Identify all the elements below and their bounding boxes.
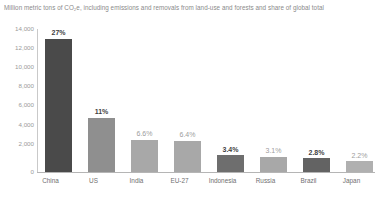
bar-slot: 11% <box>88 29 115 172</box>
bar-slot: 27% <box>45 29 72 172</box>
x-axis-line <box>37 172 375 173</box>
bar-china[interactable] <box>45 39 72 172</box>
bar-slot: 6.6% <box>131 29 158 172</box>
bar-brazil[interactable] <box>303 158 330 172</box>
bar-value-label: 3.1% <box>266 147 282 154</box>
y-axis-tick: 12,000 <box>1 45 34 51</box>
y-axis-tick: 4,000 <box>1 122 34 128</box>
x-axis-category-japan: Japan <box>334 177 369 184</box>
y-axis-tick: 2,000 <box>1 141 34 147</box>
x-axis-category-indonesia: Indonesia <box>205 177 240 184</box>
bar-value-label: 6.4% <box>180 131 196 138</box>
x-axis-category-brazil: Brazil <box>291 177 326 184</box>
bar-slot: 2.2% <box>346 29 373 172</box>
y-axis-tick: 14,000 <box>1 26 34 32</box>
y-axis-tick: 10,000 <box>1 64 34 70</box>
y-axis: 14,000 12,000 10,000 8,000 6,000 4,000 2… <box>0 0 34 202</box>
x-axis-category-eu27: EU-27 <box>162 177 197 184</box>
plot-area: 27% 11% 6.6% 6.4% 3.4% 3.1% 2.8% <box>37 29 375 172</box>
bar-slot: 6.4% <box>174 29 201 172</box>
y-axis-tick: 8,000 <box>1 83 34 89</box>
bar-russia[interactable] <box>260 157 287 172</box>
x-axis-category-india: India <box>119 177 154 184</box>
bar-value-label: 11% <box>95 108 109 115</box>
bar-value-label: 2.2% <box>352 152 368 159</box>
bar-slot: 2.8% <box>303 29 330 172</box>
bar-indonesia[interactable] <box>217 155 244 172</box>
chart-title: Million metric tons of CO₂e, including e… <box>4 3 376 12</box>
bar-eu27[interactable] <box>174 141 201 172</box>
x-axis-category-russia: Russia <box>248 177 283 184</box>
bar-slot: 3.4% <box>217 29 244 172</box>
y-axis-tick: 6,000 <box>1 102 34 108</box>
x-axis-category-china: China <box>33 177 68 184</box>
y-axis-tick: 0 <box>1 169 34 175</box>
bar-value-label: 3.4% <box>223 146 239 153</box>
bar-india[interactable] <box>131 140 158 172</box>
bar-value-label: 27% <box>51 29 65 36</box>
bar-chart: Million metric tons of CO₂e, including e… <box>0 0 380 202</box>
bar-slot: 3.1% <box>260 29 287 172</box>
bar-value-label: 6.6% <box>137 130 153 137</box>
bar-value-label: 2.8% <box>309 149 325 156</box>
bar-japan[interactable] <box>346 161 373 172</box>
x-axis-category-us: US <box>76 177 111 184</box>
bar-us[interactable] <box>88 118 115 172</box>
